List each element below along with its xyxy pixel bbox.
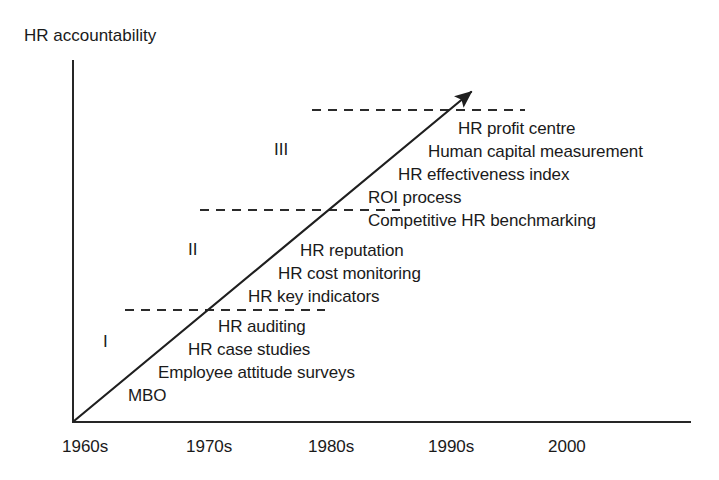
x-tick-label-1970s: 1970s	[186, 437, 232, 457]
x-tick-label-1980s: 1980s	[308, 437, 354, 457]
practice-label-hr-cost-monitoring: HR cost monitoring	[278, 265, 421, 282]
practice-label-hr-case-studies: HR case studies	[188, 341, 310, 358]
x-tick-label-1960s: 1960s	[62, 437, 108, 457]
practice-label-hr-key-indicators: HR key indicators	[248, 288, 380, 305]
y-axis-title: HR accountability	[24, 26, 156, 46]
x-tick-label-1990s: 1990s	[428, 437, 474, 457]
practice-label-human-capital-measurement: Human capital measurement	[428, 143, 643, 160]
diagram-canvas	[0, 0, 719, 480]
practice-label-employee-attitude-surveys: Employee attitude surveys	[158, 364, 355, 381]
hr-accountability-diagram: HR accountability I II III HR profit cen…	[0, 0, 719, 480]
practice-label-roi-process: ROI process	[368, 189, 461, 206]
zone-numeral-iii: III	[274, 140, 288, 160]
zone-numeral-ii: II	[188, 240, 197, 260]
practice-label-hr-effectiveness-index: HR effectiveness index	[398, 166, 569, 183]
practice-label-hr-reputation: HR reputation	[300, 242, 404, 259]
practice-label-mbo: MBO	[128, 387, 166, 404]
practice-label-competitive-hr-benchmarking: Competitive HR benchmarking	[368, 212, 596, 229]
practice-label-hr-auditing: HR auditing	[218, 318, 306, 335]
x-tick-label-2000: 2000	[548, 437, 586, 457]
practice-label-hr-profit-centre: HR profit centre	[458, 120, 575, 137]
zone-numeral-i: I	[103, 332, 108, 352]
